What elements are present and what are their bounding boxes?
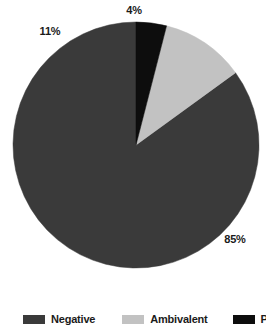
legend-label-ambivalent: Ambivalent: [150, 314, 207, 325]
chart-legend: Negative Ambivalent Positive: [0, 308, 266, 330]
legend-item-positive[interactable]: Positive: [233, 308, 266, 330]
data-label-negative: 85%: [218, 234, 252, 245]
legend-label-positive: Positive: [261, 314, 266, 325]
pie-plot-area: [0, 0, 266, 290]
legend-swatch-positive: [233, 315, 255, 324]
legend-item-negative[interactable]: Negative: [23, 308, 95, 330]
legend-swatch-negative: [23, 315, 45, 324]
legend-label-negative: Negative: [51, 314, 95, 325]
legend-item-ambivalent[interactable]: Ambivalent: [122, 308, 207, 330]
pie-slice-group: [13, 22, 259, 268]
data-label-ambivalent: 11%: [33, 26, 67, 37]
pie-chart-figure: 4% 11% 85% Negative Ambivalent Positive: [0, 0, 266, 335]
pie-chart-svg: [0, 0, 266, 290]
legend-swatch-ambivalent: [122, 315, 144, 324]
data-label-positive: 4%: [117, 5, 151, 16]
